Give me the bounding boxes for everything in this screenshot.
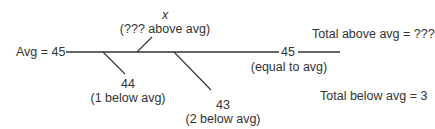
below2-note-text: (2 below avg) <box>185 112 260 126</box>
above-note-text: (??? above avg) <box>120 22 210 36</box>
total-above: Total above avg = ??? <box>312 27 435 41</box>
total-below: Total below avg = 3 <box>320 89 427 103</box>
avg-label: Avg = 45 <box>16 45 65 59</box>
above-branch <box>137 37 152 52</box>
below2-branch <box>174 52 211 90</box>
equal-note-text: (equal to avg) <box>251 60 327 74</box>
below2-value-text: 43 <box>216 98 230 112</box>
equal-value-text: 45 <box>281 45 295 59</box>
below1-value-text: 44 <box>121 77 135 91</box>
below1-note-text: (1 below avg) <box>90 91 165 105</box>
above-value-text: x <box>162 8 168 22</box>
below1-branch <box>103 52 125 74</box>
